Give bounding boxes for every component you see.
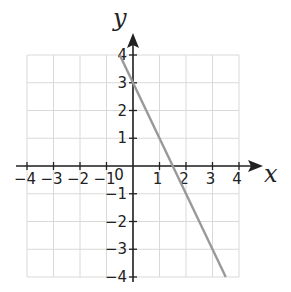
origin-label: 0	[114, 166, 124, 184]
y-tick-label: 1	[117, 129, 127, 147]
x-tick-label: −2	[67, 170, 89, 188]
x-tick-label: 4	[232, 170, 242, 188]
y-tick-label: −2	[105, 213, 127, 231]
y-tick-label: −4	[105, 268, 127, 286]
x-axis-label: x	[264, 160, 278, 188]
line-graph: −4−3−2−101234−4−3−2−11234 x y	[0, 0, 291, 292]
x-tick-label: 3	[206, 170, 216, 188]
x-tick-label: 1	[153, 170, 163, 188]
y-tick-label: 3	[117, 74, 127, 92]
y-tick-label: 2	[117, 102, 127, 120]
x-tick-label: −4	[14, 170, 36, 188]
x-tick-label: −3	[40, 170, 62, 188]
y-axis-label: y	[112, 4, 127, 32]
y-tick-label: −3	[105, 240, 127, 258]
y-tick-label: −1	[105, 185, 127, 203]
